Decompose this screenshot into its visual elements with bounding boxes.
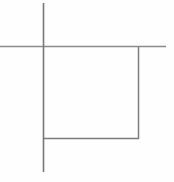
drawing-canvas xyxy=(0,0,174,182)
canvas-background xyxy=(0,0,174,182)
drawing-svg xyxy=(0,0,174,182)
